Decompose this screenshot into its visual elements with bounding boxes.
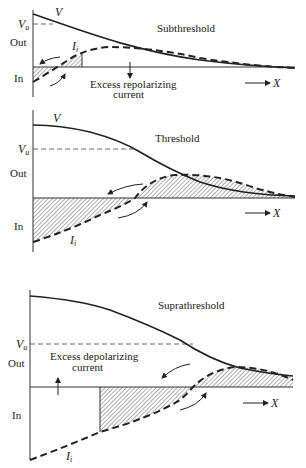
in-label: In [14, 220, 24, 232]
v-label: V [55, 5, 64, 19]
x-label: X [272, 206, 281, 220]
x-label: X [270, 396, 279, 410]
ii-label: Ii [65, 449, 72, 464]
current-arrow-right [50, 74, 65, 86]
threshold-diagram: V Vu Out In Ii Subthreshold Excess repol… [0, 0, 306, 468]
panel-subthreshold: V Vu Out In Ii Subthreshold Excess repol… [10, 5, 295, 100]
current-arrow-left [108, 184, 143, 194]
annotation-line2: current [113, 88, 144, 100]
out-label: Out [10, 167, 27, 179]
panel-title: Threshold [155, 132, 200, 144]
x-label: X [272, 76, 281, 90]
in-label: In [14, 72, 24, 84]
panel-suprathreshold: Vu Out In Ii Suprathreshold Excess depol… [8, 290, 293, 464]
vu-label: Vu [18, 142, 29, 157]
panel-title: Subthreshold [157, 22, 216, 34]
outward-current-area [193, 367, 293, 387]
outward-current-area [57, 53, 82, 67]
current-arrow-left [162, 364, 190, 378]
ii-label: Ii [71, 39, 78, 54]
ii-label: Ii [69, 233, 76, 248]
v-label: V [53, 111, 62, 125]
current-arrow-left [40, 57, 60, 64]
inward-current-area [100, 387, 193, 432]
vu-label: Vu [18, 17, 29, 32]
in-label: In [12, 409, 22, 421]
inward-current-area [33, 198, 135, 242]
panel-threshold: V Vu Out In Ii Threshold X [10, 110, 295, 252]
out-label: Out [8, 357, 25, 369]
out-label: Out [10, 36, 27, 48]
panel-title: Suprathreshold [158, 299, 225, 311]
annotation-line2: current [72, 361, 103, 373]
vu-label: Vu [16, 337, 27, 352]
